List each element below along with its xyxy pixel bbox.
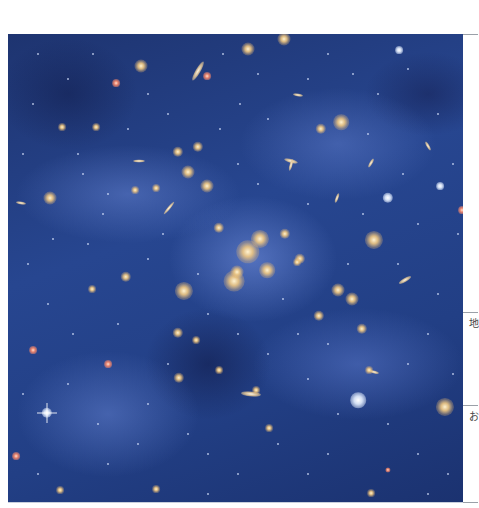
galaxy bbox=[259, 262, 275, 278]
faint-star bbox=[327, 453, 329, 455]
faint-star bbox=[92, 53, 94, 55]
faint-star bbox=[67, 78, 69, 80]
faint-star bbox=[197, 273, 199, 275]
galaxy bbox=[242, 43, 255, 56]
faint-star bbox=[32, 103, 34, 105]
table-cell-label-1: 地 bbox=[469, 318, 479, 330]
galaxy bbox=[367, 489, 375, 497]
faint-star bbox=[97, 423, 99, 425]
faint-star bbox=[282, 298, 284, 300]
faint-star bbox=[67, 383, 69, 385]
galaxy bbox=[173, 147, 183, 157]
faint-star bbox=[377, 93, 379, 95]
faint-star bbox=[47, 303, 49, 305]
galaxy bbox=[346, 293, 359, 306]
galaxy bbox=[280, 229, 290, 239]
faint-star bbox=[167, 363, 169, 365]
galaxy bbox=[182, 166, 195, 179]
table-rule bbox=[463, 312, 478, 313]
faint-star bbox=[437, 113, 439, 115]
faint-star bbox=[452, 373, 454, 375]
faint-star bbox=[267, 118, 269, 120]
faint-star bbox=[307, 473, 309, 475]
faint-star bbox=[82, 173, 84, 175]
table-rule bbox=[463, 405, 478, 406]
faint-star bbox=[107, 193, 109, 195]
faint-star bbox=[237, 163, 239, 165]
galaxy bbox=[92, 123, 100, 131]
galaxy bbox=[251, 230, 269, 248]
faint-star bbox=[427, 333, 429, 335]
galaxy bbox=[314, 311, 324, 321]
galaxy bbox=[192, 336, 200, 344]
faint-star bbox=[117, 323, 119, 325]
galaxy bbox=[436, 398, 454, 416]
faint-star bbox=[239, 103, 241, 105]
galaxy bbox=[193, 142, 203, 152]
galaxy bbox=[44, 192, 57, 205]
faint-star bbox=[437, 293, 439, 295]
faint-star bbox=[452, 163, 454, 165]
faint-star bbox=[447, 473, 449, 475]
galaxy bbox=[316, 124, 326, 134]
faint-star bbox=[237, 333, 239, 335]
galaxy bbox=[214, 223, 224, 233]
faint-star bbox=[77, 153, 79, 155]
faint-star bbox=[297, 333, 299, 335]
faint-star bbox=[222, 53, 224, 55]
edge-on-galaxy bbox=[163, 201, 176, 215]
faint-star bbox=[417, 453, 419, 455]
faint-star bbox=[72, 333, 74, 335]
faint-star bbox=[102, 213, 104, 215]
galaxy bbox=[332, 284, 345, 297]
galaxy bbox=[252, 386, 260, 394]
faint-star bbox=[22, 153, 24, 155]
faint-star bbox=[52, 238, 54, 240]
faint-star bbox=[37, 473, 39, 475]
faint-star bbox=[37, 53, 39, 55]
faint-star bbox=[417, 223, 419, 225]
galaxy bbox=[88, 285, 96, 293]
star bbox=[42, 408, 52, 418]
faint-star bbox=[327, 53, 329, 55]
faint-star bbox=[107, 463, 109, 465]
galaxy bbox=[201, 180, 214, 193]
galaxy bbox=[293, 258, 301, 266]
faint-star bbox=[237, 473, 239, 475]
edge-on-galaxy bbox=[293, 93, 303, 98]
edge-on-galaxy bbox=[424, 141, 432, 151]
faint-star bbox=[457, 233, 459, 235]
table-rule bbox=[463, 34, 478, 35]
table-cell-label-2: お bbox=[469, 411, 479, 423]
red-star bbox=[203, 72, 211, 80]
star bbox=[395, 46, 403, 54]
star bbox=[383, 193, 393, 203]
faint-star bbox=[407, 363, 409, 365]
faint-star bbox=[207, 493, 209, 495]
faint-star bbox=[27, 263, 29, 265]
red-star bbox=[104, 360, 112, 368]
edge-on-galaxy bbox=[133, 160, 145, 163]
faint-star bbox=[402, 173, 404, 175]
faint-star bbox=[187, 433, 189, 435]
galaxy bbox=[152, 485, 160, 493]
faint-star bbox=[207, 453, 209, 455]
galaxy bbox=[152, 184, 160, 192]
faint-star bbox=[257, 73, 259, 75]
faint-star bbox=[387, 423, 389, 425]
red-star bbox=[112, 79, 120, 87]
star bbox=[436, 182, 444, 190]
galaxy bbox=[265, 424, 273, 432]
faint-star bbox=[137, 443, 139, 445]
faint-star bbox=[257, 183, 259, 185]
faint-star bbox=[162, 233, 164, 235]
galaxy bbox=[174, 373, 184, 383]
galaxy bbox=[365, 231, 383, 249]
galaxy bbox=[175, 282, 193, 300]
faint-star bbox=[367, 133, 369, 135]
faint-star bbox=[397, 263, 399, 265]
galaxy bbox=[135, 60, 148, 73]
faint-star bbox=[147, 258, 149, 260]
galaxy bbox=[215, 366, 223, 374]
